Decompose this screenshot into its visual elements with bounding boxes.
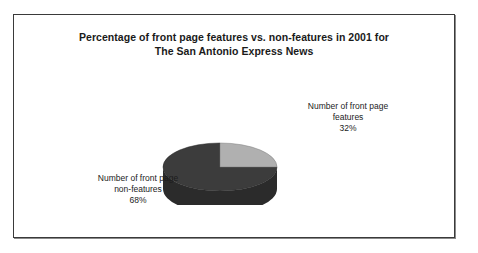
data-label-features-value: 32% (282, 123, 414, 134)
scanned-page-header-artifact: ­­­ ­­­­ ­­ ­­­­­ ­­­ ­­­­ (3, 1, 111, 6)
data-label-features: Number of front page features 32% (282, 101, 414, 134)
data-label-non-features-name-line-2: non-features (64, 184, 212, 195)
chart-frame: Percentage of front page features vs. no… (13, 14, 455, 238)
data-label-non-features: Number of front page non-features 68% (64, 173, 212, 206)
data-label-non-features-name-line-1: Number of front page (64, 173, 212, 184)
pie-slice-features-top (220, 143, 277, 167)
data-label-features-name-line-1: Number of front page (282, 101, 414, 112)
data-label-non-features-value: 68% (64, 195, 212, 206)
plot-area: Number of front page features 32% Number… (14, 15, 454, 237)
data-label-features-name-line-2: features (282, 112, 414, 123)
